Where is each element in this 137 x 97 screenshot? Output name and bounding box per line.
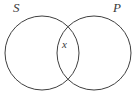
set-label-s: S (13, 1, 20, 14)
venn-diagram: S P x (0, 0, 137, 97)
circle-predicate-p (57, 16, 131, 90)
intersection-label-x: x (62, 39, 67, 50)
set-label-p: P (113, 1, 121, 14)
